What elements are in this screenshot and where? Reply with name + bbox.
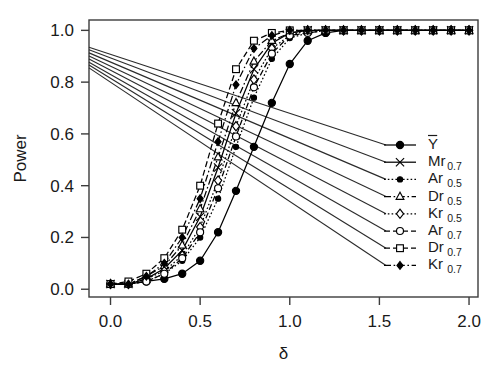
data-point-marker <box>214 153 222 160</box>
data-point-marker <box>397 262 403 270</box>
data-point-marker <box>232 98 240 105</box>
legend-label-subscript: 0.5 <box>447 212 462 224</box>
legend-item-kr05[interactable]: Kr0.5 <box>384 204 462 224</box>
series-line-kr07 <box>111 30 470 284</box>
data-point-marker <box>250 143 257 150</box>
legend-label-subscript: 0.7 <box>447 160 462 172</box>
series-line-ar05 <box>111 30 470 284</box>
x-tick-label: 1.5 <box>368 312 392 331</box>
data-point-marker <box>214 229 221 236</box>
legend-item-ybar[interactable]: Y <box>384 135 438 152</box>
legend-label-subscript: 0.5 <box>447 195 462 207</box>
legend-label: Ar <box>428 169 443 186</box>
legend-label: Dr <box>428 187 444 204</box>
data-point-marker <box>397 245 404 252</box>
data-point-marker <box>161 270 168 277</box>
legend-label-subscript: 0.7 <box>447 229 462 241</box>
series-markers-ybar <box>107 27 473 288</box>
legend-label: Ar <box>428 221 443 238</box>
data-point-marker <box>232 133 239 140</box>
y-tick-label: 0.4 <box>50 177 74 196</box>
data-point-marker <box>197 229 204 236</box>
data-point-marker <box>251 37 258 44</box>
data-point-marker <box>286 60 293 67</box>
legend-label-subscript: 0.5 <box>447 177 462 189</box>
legend-item-ar07[interactable]: Ar0.7 <box>384 221 462 241</box>
y-tick-label: 0.6 <box>50 125 74 144</box>
legend-label-subscript: 0.7 <box>447 263 462 275</box>
legend-label: Kr <box>428 204 443 221</box>
series-line-mr07 <box>111 30 470 284</box>
y-tick-label: 0.2 <box>50 228 74 247</box>
x-tick-label: 1.0 <box>278 312 302 331</box>
data-point-marker <box>396 192 404 199</box>
figure-container: YMr0.7Ar0.5Dr0.5Kr0.5Ar0.7Dr0.7Kr0.7 0.0… <box>0 0 500 374</box>
legend-label-subscript: 0.7 <box>447 246 462 258</box>
plot-frame <box>89 20 478 297</box>
legend-item-mr07[interactable]: Mr0.7 <box>384 152 462 172</box>
data-point-marker <box>250 84 257 91</box>
x-tick-label: 0.5 <box>188 312 212 331</box>
legend-leader-lines <box>89 47 386 265</box>
legend-label: Y <box>428 135 438 152</box>
data-point-marker <box>179 226 186 233</box>
data-point-marker <box>197 257 204 264</box>
axes-group <box>81 20 478 305</box>
series-line-dr07 <box>111 30 470 284</box>
power-vs-delta-line-chart: YMr0.7Ar0.5Dr0.5Kr0.5Ar0.7Dr0.7Kr0.7 0.0… <box>0 0 500 374</box>
axis-labels-group: 0.00.51.01.52.00.00.20.40.60.81.0δPower <box>11 21 481 363</box>
data-point-marker <box>215 196 220 201</box>
data-point-marker <box>233 66 240 73</box>
legend-item-kr07[interactable]: Kr0.7 <box>384 255 462 275</box>
legend-leader-line <box>89 68 386 266</box>
data-point-marker <box>396 209 403 218</box>
legend-leader-line <box>89 65 386 248</box>
data-point-marker <box>397 177 402 182</box>
legend-label: Kr <box>428 255 443 272</box>
series-line-dr05 <box>111 30 470 284</box>
data-point-marker <box>268 99 275 106</box>
data-point-marker <box>197 182 204 189</box>
legend-item-ar05[interactable]: Ar0.5 <box>384 169 462 189</box>
x-tick-label: 2.0 <box>457 312 481 331</box>
data-point-marker <box>179 255 186 262</box>
legend-label: Mr <box>428 152 446 169</box>
x-tick-label: 0.0 <box>99 312 123 331</box>
legend-item-dr07[interactable]: Dr0.7 <box>384 238 462 258</box>
series-line-ybar <box>111 30 470 284</box>
legend-label: Dr <box>428 238 444 255</box>
data-point-marker <box>251 95 256 100</box>
data-point-marker <box>304 37 311 44</box>
series-markers-group <box>106 26 473 289</box>
y-tick-label: 0.8 <box>50 73 74 92</box>
data-point-marker <box>396 141 403 148</box>
data-point-marker <box>397 228 404 235</box>
data-point-marker <box>215 120 222 127</box>
legend-leader-line <box>89 47 386 145</box>
data-point-marker <box>179 270 186 277</box>
legend-item-dr05[interactable]: Dr0.5 <box>384 187 462 207</box>
data-point-marker <box>215 185 222 192</box>
series-line-kr05 <box>111 30 470 284</box>
data-point-marker <box>251 45 257 53</box>
series-curves-group <box>111 30 470 284</box>
data-point-marker <box>250 57 258 64</box>
data-point-marker <box>233 144 238 149</box>
data-point-marker <box>214 176 221 185</box>
series-line-ar07 <box>111 30 470 284</box>
y-axis-title: Power <box>11 134 30 183</box>
data-point-marker <box>268 50 275 57</box>
y-tick-label: 1.0 <box>50 21 74 40</box>
data-point-marker <box>232 187 239 194</box>
y-tick-label: 0.0 <box>50 280 74 299</box>
legend[interactable]: YMr0.7Ar0.5Dr0.5Kr0.5Ar0.7Dr0.7Kr0.7 <box>384 135 462 275</box>
data-point-marker <box>215 138 221 146</box>
x-axis-title: δ <box>279 344 288 363</box>
data-point-marker <box>233 81 239 89</box>
